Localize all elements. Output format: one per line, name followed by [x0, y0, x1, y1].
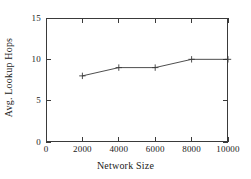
x-tick-mark: [228, 137, 229, 142]
x-tick-mark-top: [118, 18, 119, 23]
x-tick-mark: [82, 137, 83, 142]
x-tick-mark: [118, 137, 119, 142]
y-tick-mark-right: [223, 59, 228, 60]
plot-frame: [46, 18, 228, 142]
y-axis-label: Avg. Lookup Hops: [3, 8, 14, 148]
chart-figure: 051015 0200040006000800010000 Network Si…: [0, 0, 251, 179]
y-axis-label-container: Avg. Lookup Hops: [0, 0, 18, 160]
x-tick-mark-top: [228, 18, 229, 23]
x-tick-mark-top: [155, 18, 156, 23]
y-tick-mark: [46, 142, 51, 143]
x-tick-label: 10000: [198, 145, 251, 154]
y-tick-mark: [46, 100, 51, 101]
x-tick-mark: [191, 137, 192, 142]
x-tick-mark-top: [191, 18, 192, 23]
x-tick-mark: [155, 137, 156, 142]
x-tick-mark-top: [46, 18, 47, 23]
y-tick-mark-right: [223, 100, 228, 101]
x-axis-label: Network Size: [0, 160, 251, 171]
x-tick-mark-top: [82, 18, 83, 23]
y-tick-mark: [46, 59, 51, 60]
x-tick-mark: [46, 137, 47, 142]
y-tick-mark: [46, 18, 51, 19]
